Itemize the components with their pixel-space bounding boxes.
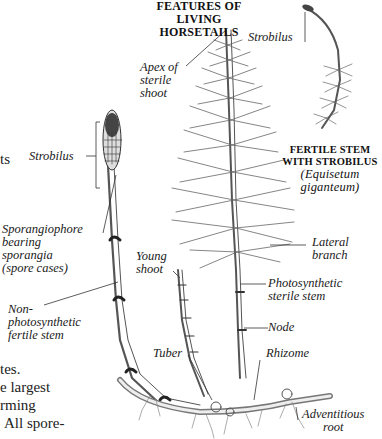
inset-caption-line-1: FERTILE STEM xyxy=(278,144,382,156)
label-node: Node xyxy=(268,321,294,334)
label-sporangiophore: Sporangiophore bearing sporangia (spore … xyxy=(2,223,83,275)
label-lateral-branch: Lateral branch xyxy=(312,236,349,262)
label-young-shoot-line-2: shoot xyxy=(136,263,167,276)
figure-title: FEATURES OF LIVING HORSETAILS xyxy=(134,0,264,39)
label-non-photosynthetic-line-3: fertile stem xyxy=(8,329,81,342)
side-text-tes: tes. xyxy=(0,360,20,378)
title-line-2: HORSETAILS xyxy=(134,26,264,39)
inset-species-line-2: giganteum) xyxy=(278,181,382,194)
inset-caption: FERTILE STEM WITH STROBILUS (Equisetum g… xyxy=(278,144,382,194)
horsetail-illustration xyxy=(0,0,382,439)
title-line-1: FEATURES OF LIVING xyxy=(134,0,264,26)
side-text-largest: e largest xyxy=(0,378,50,396)
label-sporangiophore-line-4: (spore cases) xyxy=(2,262,83,275)
label-adventitious-line-2: root xyxy=(302,421,365,434)
label-photosynthetic-sterile-stem: Photosynthetic sterile stem xyxy=(268,277,342,303)
label-young-shoot: Young shoot xyxy=(136,250,167,276)
label-apex-line-3: shoot xyxy=(140,87,178,100)
label-strobilus: Strobilus xyxy=(29,150,74,163)
side-text-spore: All spore- xyxy=(4,414,64,432)
label-adventitious-root: Adventitious root xyxy=(302,408,365,434)
inset-strobilus-label: Strobilus xyxy=(248,31,293,44)
side-text-rming: rming xyxy=(0,396,36,414)
label-apex-sterile-shoot: Apex of sterile shoot xyxy=(140,61,178,100)
label-photosynthetic-line-2: sterile stem xyxy=(268,290,342,303)
horsetail-diagram: FEATURES OF LIVING HORSETAILS Strobilus … xyxy=(0,0,382,439)
label-tuber: Tuber xyxy=(153,347,182,360)
label-rhizome: Rhizome xyxy=(266,347,309,360)
label-non-photosynthetic-fertile-stem: Non- photosynthetic fertile stem xyxy=(8,303,81,342)
label-lateral-branch-line-2: branch xyxy=(312,249,349,262)
side-text-ts: ts xyxy=(0,150,10,168)
